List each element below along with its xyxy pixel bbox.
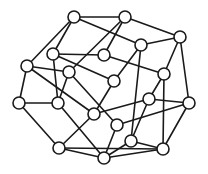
node-F [98,49,110,61]
edge-layer [19,17,189,158]
node-S [53,142,65,154]
node-Q [125,135,137,147]
node-B [119,11,131,23]
node-G [21,60,33,72]
edge-D-F [53,54,104,55]
node-K [13,97,25,109]
node-M [143,93,155,105]
edge-C-N [180,37,189,103]
edge-O-S [59,114,94,148]
node-D [47,48,59,60]
edge-B-C [125,17,180,37]
edge-R-T [104,149,163,158]
edge-K-S [19,103,59,148]
edge-A-E [74,17,141,45]
node-C [174,31,186,43]
edge-E-Q [131,45,141,141]
node-A [68,11,80,23]
node-P [111,119,123,131]
edge-D-L [53,54,58,103]
node-T [98,152,110,164]
edge-F-I [104,55,164,74]
node-N [183,97,195,109]
node-L [52,97,64,109]
node-H [63,66,75,78]
node-R [157,143,169,155]
edge-R-S [59,148,163,149]
node-I [158,68,170,80]
node-O [88,108,100,120]
node-J [108,75,120,87]
edge-B-H [69,17,125,72]
node-E [135,39,147,51]
graph-diagram [0,0,208,174]
